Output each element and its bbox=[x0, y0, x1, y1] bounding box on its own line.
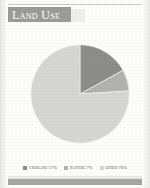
chart-legend: Cropland 17% Pasture 7% Other 76% bbox=[8, 163, 142, 173]
pie-slice-group bbox=[31, 45, 129, 143]
page-title: Land Use bbox=[12, 8, 60, 22]
legend-swatch-other bbox=[100, 166, 104, 170]
panel-title-band: Land Use bbox=[8, 7, 71, 22]
legend-item-cropland: Cropland 17% bbox=[23, 165, 57, 171]
title-band-shadow bbox=[71, 9, 85, 22]
legend-item-pasture: Pasture 7% bbox=[64, 165, 93, 171]
legend-swatch-pasture bbox=[64, 166, 68, 170]
legend-label-cropland: Cropland 17% bbox=[29, 165, 57, 171]
top-divider-rule bbox=[8, 4, 142, 5]
land-use-panel: Land Use Cropland 17% Pasture 7% Other 7… bbox=[0, 0, 150, 188]
chart-area bbox=[8, 26, 142, 162]
legend-label-other: Other 76% bbox=[106, 165, 128, 171]
pie-chart bbox=[30, 44, 130, 144]
footer-band bbox=[8, 179, 142, 185]
legend-label-pasture: Pasture 7% bbox=[70, 165, 93, 171]
pie-chart-svg bbox=[30, 44, 130, 144]
legend-item-other: Other 76% bbox=[100, 165, 128, 171]
legend-swatch-cropland bbox=[23, 166, 27, 170]
